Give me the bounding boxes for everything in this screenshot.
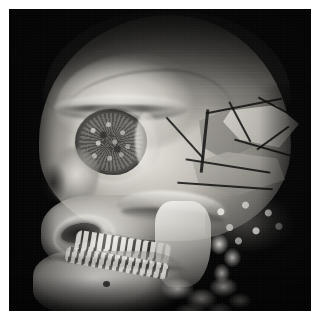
cervical-spine-fragments: [159, 277, 251, 311]
viewport-vignette: [9, 9, 311, 311]
fracture-line-1: [206, 98, 283, 115]
anterior-shadow: [9, 69, 55, 259]
slice-interpolation-banding: [9, 9, 311, 311]
fracture-line-5: [185, 158, 270, 173]
lateral-orbital-wall: [135, 113, 161, 169]
cervical-spine-upper: [205, 233, 249, 289]
mandible-body: [33, 251, 193, 311]
viewport-caption: [9, 9, 10, 10]
nasal-shadow: [39, 161, 69, 205]
fracture-finding-label: Comminuted fracture lines, temporopariet…: [179, 101, 180, 102]
zygomatic-arch-shadow: [121, 204, 226, 227]
zygomatic-arch: [116, 187, 228, 223]
fracture-line-4: [234, 138, 294, 157]
fracture-line-6: [166, 117, 205, 160]
piriform-aperture: [60, 221, 102, 246]
fracture-line-7: [256, 125, 290, 150]
lower-dentition: [64, 246, 169, 280]
nasal-bone-region: [47, 147, 99, 209]
upper-dentition: [74, 230, 172, 267]
vault-top-shadow: [43, 11, 291, 131]
supraorbital-ridge: [53, 95, 189, 121]
inferior-shadow: [9, 277, 311, 311]
fracture-line-2: [258, 96, 307, 123]
vault-rendering-artifacts: [61, 33, 275, 129]
piriform-aperture-rim: [51, 211, 118, 260]
orbit-trabecular-texture: [79, 113, 143, 171]
maxilla-region: [41, 195, 181, 273]
supraorbital-groove: [57, 105, 179, 112]
temporal-line: [65, 69, 235, 115]
fracture-line-8: [177, 182, 273, 191]
mastoid-skull-base: [205, 195, 293, 251]
orbit-socket: [75, 109, 147, 175]
mandible-alveolar-edge: [39, 252, 189, 273]
mental-foramen: [103, 281, 110, 287]
ct-volume-rendering-viewport[interactable]: Comminuted fracture lines, temporopariet…: [9, 9, 311, 311]
orbital-rim: [72, 106, 155, 183]
mandibular-ramus: [155, 201, 211, 287]
cranial-vault-region: [39, 15, 291, 241]
page-root: Comminuted fracture lines, temporopariet…: [0, 0, 328, 321]
